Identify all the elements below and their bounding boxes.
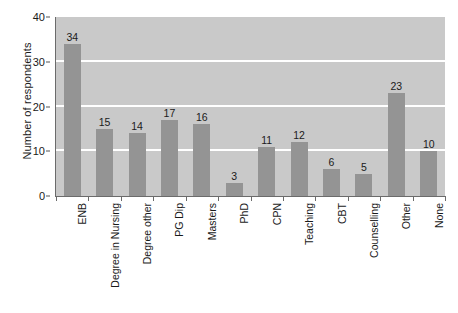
y-axis-tick-mark (46, 61, 50, 62)
bar (96, 129, 113, 196)
x-axis-tick-mark (218, 197, 219, 201)
y-axis-tick-mark (46, 17, 50, 18)
gridline-30 (56, 60, 445, 62)
x-axis-label-teaching: Teaching (303, 203, 315, 245)
y-axis-tick-mark (46, 106, 50, 107)
x-axis-tick-mark (186, 197, 187, 201)
x-axis-label-phd: PhD (238, 203, 250, 223)
bar (291, 142, 308, 196)
y-axis-tick-0: 0 (39, 190, 45, 202)
y-axis-tick-mark (46, 151, 50, 152)
bar (388, 93, 405, 196)
x-axis-tick-mark (283, 197, 284, 201)
x-axis-tick-mark (380, 197, 381, 201)
x-axis-tick-mark (56, 197, 57, 201)
bar (420, 151, 437, 196)
bar (129, 133, 146, 196)
x-axis-tick-mark (413, 197, 414, 201)
bar-chart-figure: Number of respondents 010203040 34151417… (0, 0, 458, 313)
bar-value-label: 10 (409, 138, 445, 150)
x-axis-label-other: Other (400, 203, 412, 229)
x-axis-tick-mark (315, 197, 316, 201)
x-axis-label-degree-other: Degree other (141, 203, 153, 264)
bar (161, 120, 178, 196)
bar-value-label: 23 (376, 80, 416, 92)
bar (323, 169, 340, 196)
y-axis-tick-30: 30 (33, 56, 45, 68)
bar-value-label: 14 (117, 120, 157, 132)
x-axis-label-degree-in-nursing: Degree in Nursing (109, 203, 121, 288)
x-axis-tick-mark (121, 197, 122, 201)
x-axis-tick-mark (153, 197, 154, 201)
bar (258, 147, 275, 196)
bar-value-label: 5 (344, 161, 384, 173)
plot-area: 341514171631112652310 (56, 17, 445, 196)
y-axis-tick-20: 20 (33, 101, 45, 113)
x-axis-label-none: None (433, 203, 445, 228)
x-axis-tick-mark (88, 197, 89, 201)
x-axis-tick-mark (348, 197, 349, 201)
gridline-20 (56, 105, 445, 107)
gridline-10 (56, 149, 445, 151)
y-axis-tick-labels: 010203040 (22, 17, 50, 196)
y-axis-tick-10: 10 (33, 145, 45, 157)
x-axis-label-counselling: Counselling (368, 203, 380, 258)
bar-value-label: 3 (214, 170, 254, 182)
x-axis-label-cpn: CPN (271, 203, 283, 225)
y-axis-tick-40: 40 (33, 11, 45, 23)
x-axis-tick-mark (251, 197, 252, 201)
bar (355, 174, 372, 196)
x-axis-label-masters: Masters (206, 203, 218, 240)
x-axis-tick-mark (445, 197, 446, 201)
bar (193, 124, 210, 196)
y-axis-tick-mark (46, 196, 50, 197)
bar (64, 44, 81, 196)
x-axis-label-pg-dip: PG Dip (173, 203, 185, 237)
bar-value-label: 16 (182, 111, 222, 123)
bar-value-label: 34 (56, 31, 92, 43)
x-axis-label-enb: ENB (76, 203, 88, 225)
bar-value-label: 12 (279, 129, 319, 141)
x-axis-label-cbt: CBT (336, 203, 348, 224)
bar (226, 183, 243, 196)
